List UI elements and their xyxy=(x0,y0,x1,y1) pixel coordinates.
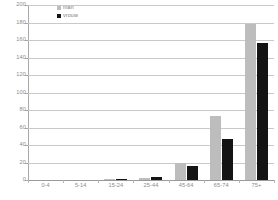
legend-label: man xyxy=(63,5,74,10)
bar-group xyxy=(133,5,168,180)
x-tick-label: 15-24 xyxy=(98,183,133,189)
bar-group xyxy=(204,5,239,180)
y-tick-label: 0 xyxy=(2,177,26,183)
bar-man xyxy=(104,179,115,180)
bar-man xyxy=(139,178,150,180)
bar-vrouw xyxy=(187,166,198,180)
bar-vrouw xyxy=(151,177,162,180)
legend-swatch-man xyxy=(57,6,61,10)
bar-vrouw xyxy=(116,179,127,180)
x-axis-labels: 0-45-1415-2425-4445-6465-7475+ xyxy=(28,183,274,189)
y-tick-label: 200 xyxy=(2,2,26,8)
legend-item: vrouw xyxy=(57,13,78,19)
x-tick-label: 45-64 xyxy=(169,183,204,189)
y-tick-label: 180 xyxy=(2,20,26,26)
bar-vrouw xyxy=(222,139,233,180)
bar-groups xyxy=(28,5,274,180)
x-tick-label: 25-44 xyxy=(133,183,168,189)
bar-group xyxy=(28,5,63,180)
bar-group xyxy=(63,5,98,180)
gridline xyxy=(28,180,274,181)
y-tick-label: 100 xyxy=(2,90,26,96)
bar-man xyxy=(175,163,186,180)
y-tick-label: 20 xyxy=(2,160,26,166)
legend-label: vrouw xyxy=(63,13,78,18)
plot-area xyxy=(28,5,274,180)
x-tick-mark xyxy=(274,180,275,183)
bar-group xyxy=(239,5,274,180)
chart-legend: manvrouw xyxy=(57,5,78,19)
bar-vrouw xyxy=(257,43,268,180)
y-tick-label: 140 xyxy=(2,55,26,61)
x-tick-label: 65-74 xyxy=(204,183,239,189)
y-tick-label: 120 xyxy=(2,72,26,78)
bar-chart: 020406080100120140160180200 0-45-1415-24… xyxy=(0,0,278,200)
y-tick-label: 160 xyxy=(2,37,26,43)
x-tick-label: 75+ xyxy=(239,183,274,189)
bar-man xyxy=(210,116,221,180)
y-tick-label: 40 xyxy=(2,142,26,148)
bar-group xyxy=(98,5,133,180)
x-tick-label: 5-14 xyxy=(63,183,98,189)
bar-man xyxy=(245,24,256,180)
y-tick-label: 80 xyxy=(2,107,26,113)
x-tick-label: 0-4 xyxy=(28,183,63,189)
bar-group xyxy=(169,5,204,180)
legend-swatch-vrouw xyxy=(57,14,61,18)
legend-item: man xyxy=(57,5,78,11)
y-tick-label: 60 xyxy=(2,125,26,131)
